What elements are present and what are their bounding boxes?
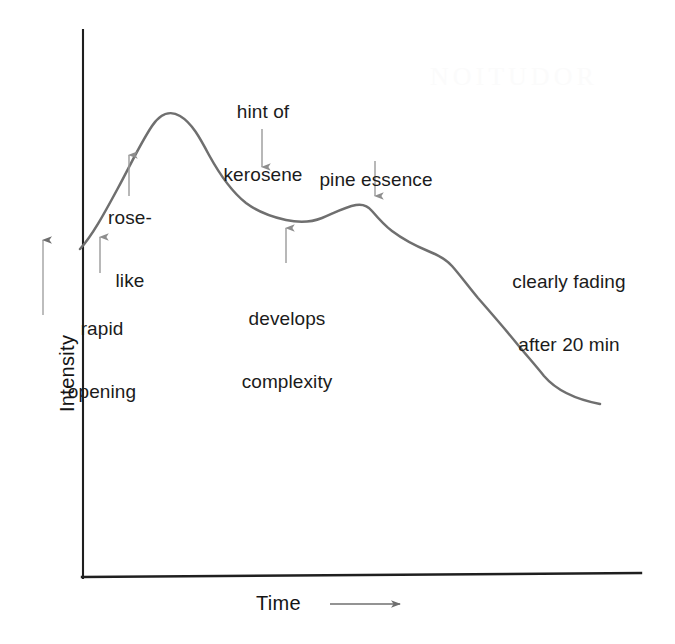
annotation-clearly-fading-line1: clearly fading xyxy=(494,271,644,292)
annotation-pine-essence: pine essence xyxy=(310,126,442,232)
fragrance-intensity-chart: NOITUDOR xyxy=(0,0,675,644)
annotation-clearly-fading: clearly fading after 20 min xyxy=(494,228,644,398)
annotation-rose-like-line2: like xyxy=(96,270,164,291)
annotation-pine-essence-line1: pine essence xyxy=(310,169,442,190)
annotation-hint-of-kerosene: hint of kerosene xyxy=(202,58,324,228)
annotation-rose-like: rose- like xyxy=(96,164,164,334)
annotation-hint-of-kerosene-line2: kerosene xyxy=(202,164,324,185)
annotation-develops-complexity: develops complexity xyxy=(220,265,354,435)
y-axis-label: Intensity xyxy=(56,335,79,412)
annotation-rose-like-line1: rose- xyxy=(96,207,164,228)
annotation-clearly-fading-line2: after 20 min xyxy=(494,334,644,355)
annotation-hint-of-kerosene-line1: hint of xyxy=(202,101,324,122)
annotation-develops-complexity-line2: complexity xyxy=(220,371,354,392)
annotation-develops-complexity-line1: develops xyxy=(220,308,354,329)
x-axis-label: Time xyxy=(256,592,301,615)
